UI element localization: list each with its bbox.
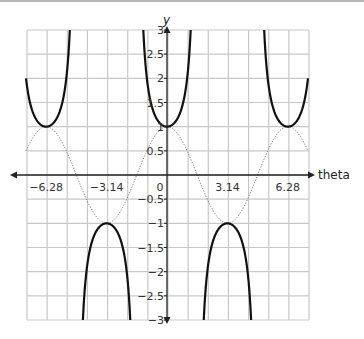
x-tick-label: 3.14 — [215, 181, 240, 194]
y-tick-label: 0.5 — [147, 145, 165, 158]
y-tick-label: 1.5 — [147, 97, 165, 110]
chart: −6.28−3.1403.146.28 32.521.510.5−0.5−1−1… — [0, 0, 364, 339]
y-tick-label: −3 — [148, 314, 164, 327]
x-axis-right-arrow-icon — [308, 172, 315, 179]
y-tick-label: −2 — [148, 266, 164, 279]
x-tick-label: 0 — [157, 181, 164, 194]
y-axis-label: y — [162, 13, 171, 27]
x-tick-labels: −6.28−3.1403.146.28 — [29, 181, 300, 194]
y-tick-label: 1 — [157, 121, 164, 134]
y-tick-label: −0.5 — [137, 193, 164, 206]
x-axis-left-arrow-icon — [10, 172, 17, 179]
x-tick-label: −6.28 — [29, 181, 63, 194]
y-tick-label: −1 — [148, 217, 164, 230]
y-tick-label: −2.5 — [137, 290, 164, 303]
y-tick-label: 2 — [157, 72, 164, 85]
x-axis-label: theta — [318, 168, 350, 182]
y-tick-label: −1.5 — [137, 242, 164, 255]
x-tick-label: 6.28 — [276, 181, 301, 194]
y-tick-label: 2.5 — [147, 48, 165, 61]
x-tick-label: −3.14 — [90, 181, 124, 194]
